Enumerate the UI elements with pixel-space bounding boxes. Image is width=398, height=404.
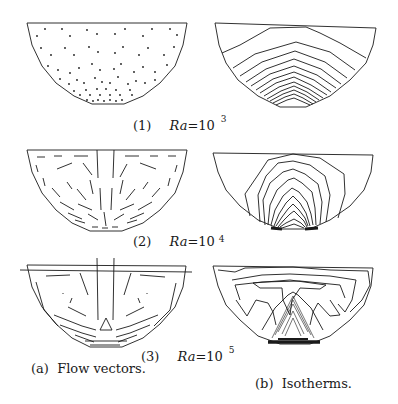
row-1-label: (1) Ra=103 (133, 118, 227, 133)
isotherms-ra1e5 (213, 266, 373, 344)
row-2-ra-exponent: 4 (219, 234, 225, 244)
row-1-ra-exponent: 3 (221, 114, 227, 124)
isotherms-ra1e3 (215, 23, 376, 107)
row-2-label: (2) Ra=104 (133, 234, 225, 249)
caption-flow-vectors: (a) Flow vectors. (31, 361, 146, 376)
row-3-ra-symbol: Ra (178, 349, 196, 364)
flow-vectors-ra1e3 (27, 23, 187, 104)
row-1-ra-value: =10 (187, 118, 214, 133)
row-2-index: (2) (133, 234, 151, 249)
row-1-ra-symbol: Ra (170, 118, 188, 133)
flow-vectors-ra1e5 (20, 258, 192, 347)
row-1-index: (1) (133, 118, 151, 133)
isotherms-ra1e4 (213, 153, 373, 229)
row-2-ra-symbol: Ra (170, 234, 188, 249)
figure-canvas (0, 0, 398, 404)
caption-isotherms: (b) Isotherms. (255, 376, 352, 391)
row-3-ra-value: =10 (195, 349, 222, 364)
row-3-label: (3) Ra=105 (141, 349, 235, 364)
row-3-ra-exponent: 5 (229, 345, 235, 355)
flow-vectors-ra1e4 (27, 150, 187, 231)
row-2-ra-value: =10 (187, 234, 214, 249)
